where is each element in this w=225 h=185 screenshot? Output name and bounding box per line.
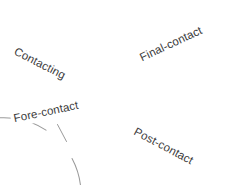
- cycle-diagram: Contacting Final-contact Fore-contact Po…: [0, 0, 225, 185]
- cycle-tick-segment: [58, 125, 67, 142]
- cycle-arc-main: [0, 118, 81, 185]
